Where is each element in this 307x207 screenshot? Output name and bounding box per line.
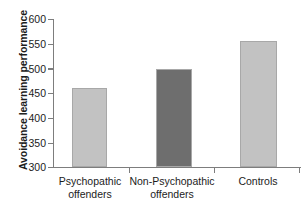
- x-category-label-non-psychopathic-offenders: Non-Psychopathic offenders: [128, 175, 216, 200]
- y-tick-label: 500: [18, 64, 46, 74]
- x-axis-line: [53, 167, 301, 168]
- bar-psychopathic-offenders: [72, 88, 107, 167]
- bar-controls: [240, 41, 277, 167]
- x-category-label-line: Controls: [218, 175, 298, 188]
- y-tick-label: 550: [18, 39, 46, 49]
- y-tick-label: 450: [18, 88, 46, 98]
- y-tick-label: 300: [18, 162, 46, 172]
- x-category-label-psychopathic-offenders: Psychopathic offenders: [50, 175, 130, 200]
- x-category-label-line: Psychopathic: [50, 175, 130, 188]
- y-tick-label: 600: [18, 14, 46, 24]
- x-category-label-line: offenders: [50, 188, 130, 201]
- x-axis-tick: [214, 168, 215, 173]
- bar-non-psychopathic-offenders: [156, 69, 192, 167]
- x-category-label-line: offenders: [128, 188, 216, 201]
- bar-chart: Avoidance learning performance 600 550 5…: [0, 0, 307, 207]
- y-axis-tick: [48, 143, 53, 144]
- x-category-label-line: Non-Psychopathic: [128, 175, 216, 188]
- y-axis-tick: [48, 44, 53, 45]
- x-axis-tick: [299, 168, 300, 173]
- y-tick-label: 400: [18, 113, 46, 123]
- y-tick-label: 350: [18, 138, 46, 148]
- y-axis-tick: [48, 118, 53, 119]
- y-axis-line: [53, 19, 54, 167]
- y-axis-tick: [48, 167, 53, 168]
- x-category-label-controls: Controls: [218, 175, 298, 188]
- y-axis-tick-labels: 600 550 500 450 400 350 300: [16, 0, 46, 207]
- y-axis-tick: [48, 93, 53, 94]
- x-axis-tick: [129, 168, 130, 173]
- y-axis-tick: [48, 19, 53, 20]
- y-axis-tick: [48, 68, 53, 69]
